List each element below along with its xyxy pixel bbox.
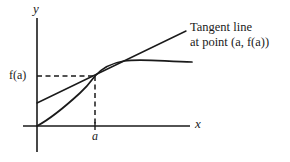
annotation-line-2: at point (a, f(a)) bbox=[190, 36, 269, 49]
tangent-line-figure: y x a f(a) Tangent line at point (a, f(a… bbox=[0, 0, 290, 162]
x-axis-label: x bbox=[195, 117, 201, 131]
function-curve bbox=[37, 60, 192, 126]
annotation-line-1: Tangent line bbox=[190, 21, 269, 34]
y-axis-label: y bbox=[33, 2, 39, 16]
y-tick-label-fa: f(a) bbox=[9, 69, 26, 82]
x-tick-label-a: a bbox=[92, 130, 98, 143]
tangent-line-annotation: Tangent line at point (a, f(a)) bbox=[190, 21, 269, 49]
tangent-line bbox=[37, 31, 186, 103]
